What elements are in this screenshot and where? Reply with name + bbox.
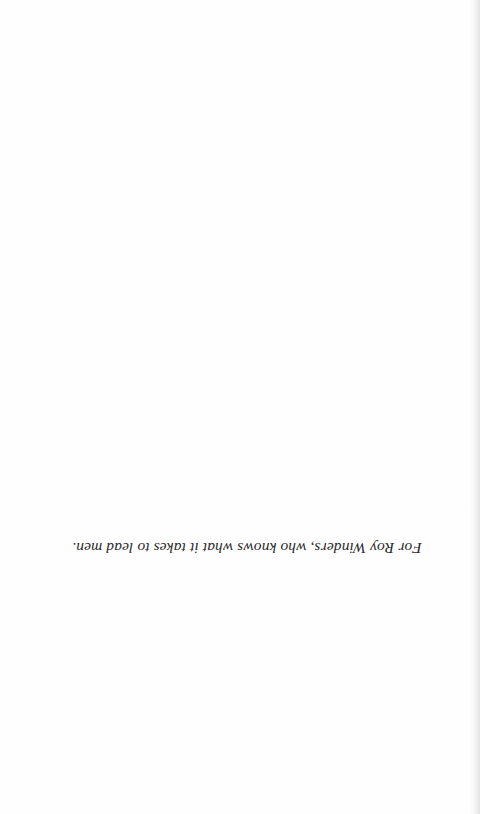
page-edge-shadow: [470, 0, 480, 814]
book-page: For Roy Winders, who knows what it takes…: [0, 0, 480, 814]
dedication-text: For Roy Winders, who knows what it takes…: [82, 537, 412, 559]
